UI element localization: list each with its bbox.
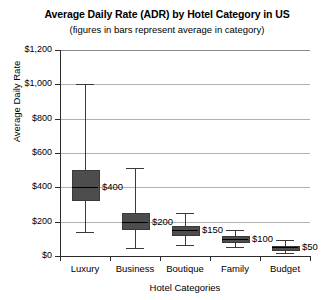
whisker-cap-high bbox=[276, 240, 294, 241]
plot-area: $400$200$150$100$50 bbox=[60, 50, 310, 256]
whisker-cap-high bbox=[176, 213, 194, 214]
x-tick-mark bbox=[210, 256, 211, 261]
whisker-line bbox=[85, 84, 86, 232]
whisker-cap-low bbox=[226, 247, 244, 248]
y-tick-label: $0 bbox=[0, 251, 52, 260]
x-tick-mark bbox=[310, 256, 311, 261]
y-tick-label: $200 bbox=[0, 217, 52, 226]
y-tick-label: $1,000 bbox=[0, 79, 52, 88]
x-tick-label-budget: Budget bbox=[255, 263, 315, 274]
y-tick-mark bbox=[55, 50, 61, 51]
whisker-cap-high bbox=[226, 230, 244, 231]
value-label-budget: $50 bbox=[302, 241, 318, 252]
x-tick-mark bbox=[160, 256, 161, 261]
median-line bbox=[122, 222, 148, 223]
gridline bbox=[60, 153, 310, 154]
chart-title: Average Daily Rate (ADR) by Hotel Catego… bbox=[0, 8, 334, 20]
median-line bbox=[222, 239, 248, 240]
y-tick-label: $800 bbox=[0, 114, 52, 123]
value-label-luxury: $400 bbox=[102, 181, 123, 192]
whisker-cap-low bbox=[276, 253, 294, 254]
y-tick-mark bbox=[55, 222, 61, 223]
y-tick-mark bbox=[55, 119, 61, 120]
x-tick-mark bbox=[110, 256, 111, 261]
median-line bbox=[72, 187, 98, 188]
value-label-boutique: $150 bbox=[202, 224, 223, 235]
y-axis-title: Average Daily Rate bbox=[11, 42, 22, 162]
y-tick-label: $400 bbox=[0, 182, 52, 191]
y-tick-mark bbox=[55, 187, 61, 188]
x-tick-mark bbox=[60, 256, 61, 261]
y-tick-mark bbox=[55, 84, 61, 85]
whisker-cap-low bbox=[176, 245, 194, 246]
y-tick-mark bbox=[55, 153, 61, 154]
median-line bbox=[272, 247, 298, 248]
chart-subtitle: (figures in bars represent average in ca… bbox=[0, 24, 334, 35]
gridline bbox=[60, 84, 310, 85]
y-tick-label: $1,200 bbox=[0, 45, 52, 54]
whisker-cap-low bbox=[126, 248, 144, 249]
y-tick-label: $600 bbox=[0, 148, 52, 157]
whisker-line bbox=[135, 168, 136, 248]
box-plot-chart: Average Daily Rate (ADR) by Hotel Catego… bbox=[0, 0, 334, 300]
box bbox=[72, 170, 100, 201]
whisker-cap-low bbox=[76, 232, 94, 233]
x-tick-mark bbox=[260, 256, 261, 261]
value-label-business: $200 bbox=[152, 216, 173, 227]
median-line bbox=[172, 230, 198, 231]
whisker-cap-high bbox=[76, 84, 94, 85]
whisker-cap-high bbox=[126, 168, 144, 169]
value-label-family: $100 bbox=[252, 233, 273, 244]
gridline bbox=[60, 119, 310, 120]
x-axis-title: Hotel Categories bbox=[60, 282, 310, 293]
x-axis-line bbox=[60, 256, 310, 257]
plot-top-border bbox=[60, 50, 310, 51]
